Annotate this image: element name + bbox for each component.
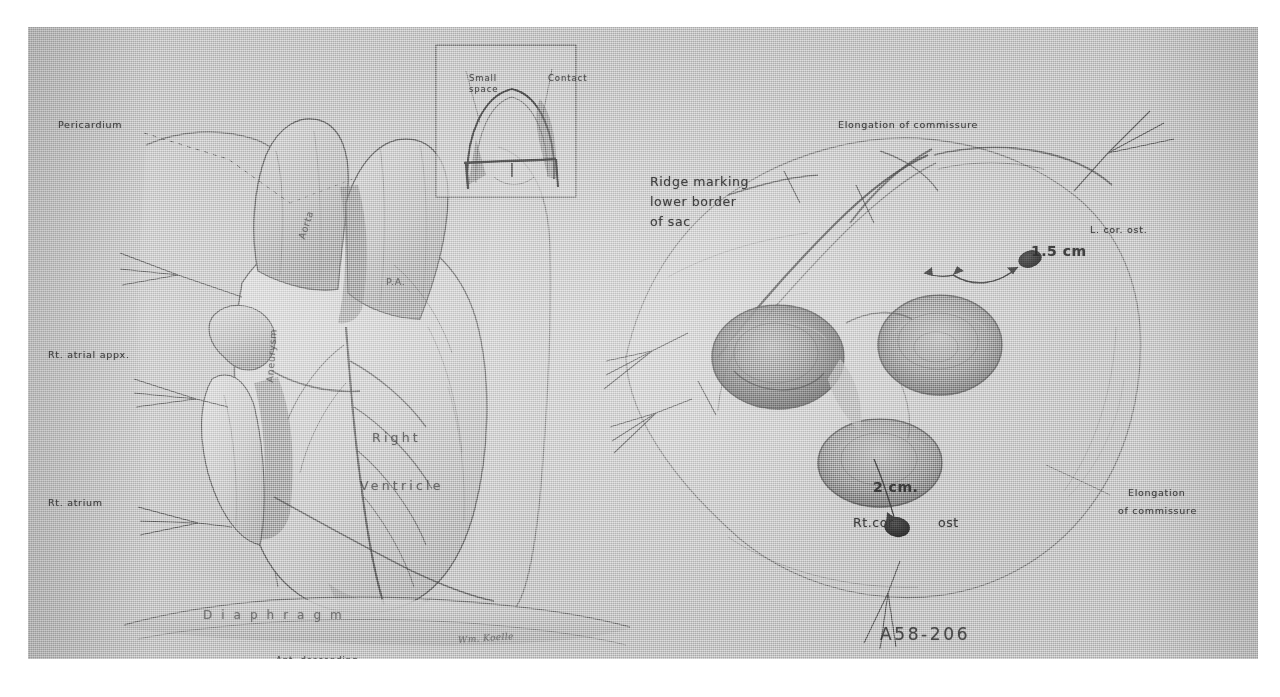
anatomical-drawing xyxy=(28,27,1258,659)
right-aortic-root-illustration xyxy=(604,111,1174,649)
inset-detail-drawing xyxy=(436,45,576,197)
left-heart-illustration xyxy=(120,119,630,646)
illustration-plate: Pericardium Rt. atrial appx. Rt. atrium … xyxy=(28,27,1258,659)
